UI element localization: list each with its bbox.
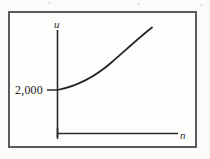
growth-curve bbox=[58, 28, 153, 91]
y-tick-label-2000: 2,000 bbox=[15, 83, 43, 98]
x-axis-label: n bbox=[180, 130, 186, 141]
figure-root: u n 2,000 bbox=[0, 0, 210, 159]
y-axis-label: u bbox=[54, 19, 60, 30]
plot-area bbox=[0, 0, 210, 159]
